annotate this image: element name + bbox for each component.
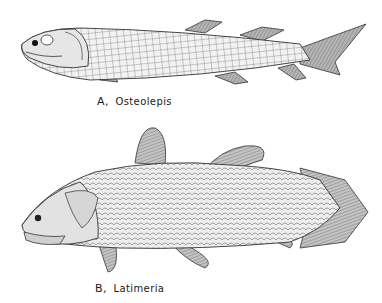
figure-osteolepis: A, Osteolepis — [0, 0, 382, 120]
caption-name: Osteolepis — [115, 96, 172, 107]
caption-name: Latimeria — [113, 283, 164, 294]
caption-latimeria: B, Latimeria — [95, 282, 164, 295]
caption-osteolepis: A, Osteolepis — [97, 95, 172, 108]
figure-latimeria: B, Latimeria — [0, 120, 382, 303]
osteolepis-illustration — [0, 0, 382, 100]
caption-letter: A, — [97, 95, 109, 108]
latimeria-illustration — [0, 120, 382, 280]
caption-letter: B, — [95, 282, 107, 295]
